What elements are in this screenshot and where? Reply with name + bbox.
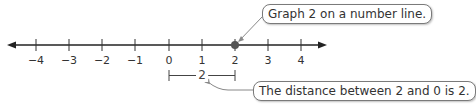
tick-label: −3 <box>61 54 77 67</box>
bottom-callout-pointer <box>208 82 253 90</box>
callout-graph-point: Graph 2 on a number line. <box>262 4 432 24</box>
top-callout-pointer <box>239 17 262 41</box>
tick-label: −1 <box>127 54 143 67</box>
tick-label: 4 <box>298 54 305 67</box>
distance-label: 2 <box>196 69 208 82</box>
right-arrow-icon <box>318 42 327 49</box>
tick-label: 1 <box>199 54 206 67</box>
graphed-point <box>231 41 239 49</box>
tick-label: 0 <box>166 54 173 67</box>
tick-label: 2 <box>232 54 239 67</box>
callout-distance: The distance between 2 and 0 is 2. <box>253 81 476 101</box>
tick-label: 3 <box>265 54 272 67</box>
left-arrow-icon <box>7 42 16 49</box>
tick-label: −4 <box>28 54 44 67</box>
tick-label: −2 <box>94 54 110 67</box>
